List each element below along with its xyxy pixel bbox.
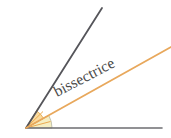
bisector-label: bissectrice (51, 54, 118, 100)
diagram-canvas: bissectrice (0, 0, 171, 138)
angle-bisector-figure: bissectrice (0, 0, 171, 138)
